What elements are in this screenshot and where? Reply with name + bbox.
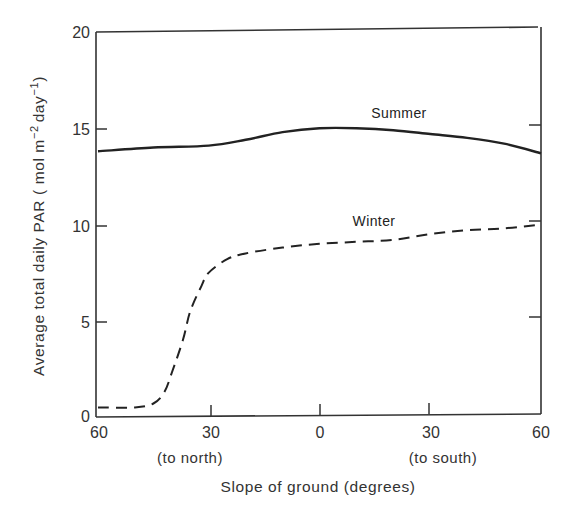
y-tick-0: 0 <box>81 408 90 425</box>
chart: 20 15 10 5 0 60 30 0 30 60 (to north) (t… <box>0 0 575 517</box>
plot-frame <box>96 27 541 417</box>
y-tick-10: 10 <box>72 218 90 235</box>
x-axis-ticks <box>211 403 429 416</box>
winter-series-line <box>98 225 541 408</box>
winter-label: Winter <box>353 213 396 229</box>
y-axis-ticks-left <box>96 129 107 322</box>
south-label: (to south) <box>409 449 477 466</box>
y-tick-20: 20 <box>72 24 90 41</box>
summer-label: Summer <box>371 105 426 121</box>
summer-series-line <box>98 128 541 153</box>
x-axis-title: Slope of ground (degrees) <box>220 478 415 495</box>
y-tick-15: 15 <box>72 121 90 138</box>
x-tick-labels: 60 30 0 30 60 <box>90 424 550 441</box>
x-tick-0: 0 <box>316 424 325 441</box>
x-tick-south-30: 30 <box>422 424 440 441</box>
x-tick-north-30: 30 <box>202 424 220 441</box>
y-tick-5: 5 <box>81 314 90 331</box>
x-tick-north-60: 60 <box>90 424 108 441</box>
y-tick-labels: 20 15 10 5 0 <box>72 24 90 425</box>
x-tick-south-60: 60 <box>532 424 550 441</box>
y-axis-title: Average total daily PAR ( mol m−2day−1) <box>28 76 47 376</box>
north-label: (to north) <box>157 449 223 466</box>
